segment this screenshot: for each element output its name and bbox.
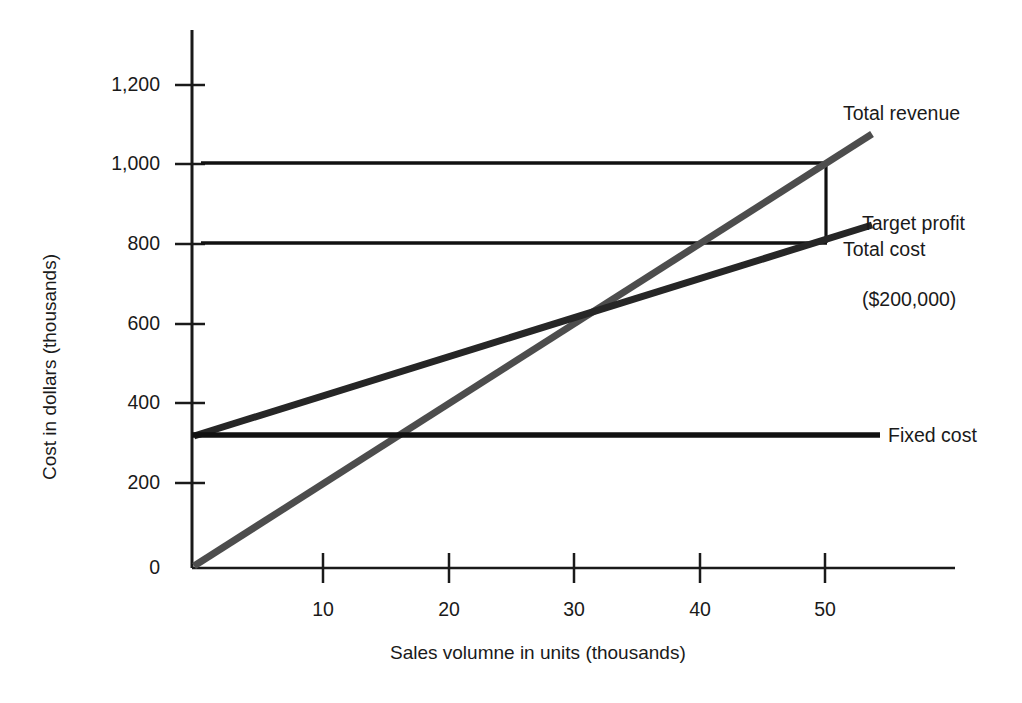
x-tick-label-50: 50	[795, 597, 855, 621]
y-tick-label-1000: 1,000	[52, 151, 160, 175]
y-tick-label-0: 0	[52, 555, 160, 579]
annotation-target-profit: Target profit ($200,000)	[862, 160, 965, 363]
annotation-total-revenue: Total revenue	[843, 101, 960, 125]
x-axis-title: Sales volumne in units (thousands)	[390, 641, 686, 665]
annotation-fixed-cost: Fixed cost	[888, 423, 977, 447]
y-tick-label-200: 200	[52, 470, 160, 494]
y-tick-label-1200: 1,200	[52, 72, 160, 96]
series-total-cost	[194, 225, 872, 436]
x-tick-label-40: 40	[670, 597, 730, 621]
x-tick-label-30: 30	[544, 597, 604, 621]
y-tick-label-600: 600	[52, 311, 160, 335]
x-tick-label-20: 20	[419, 597, 479, 621]
y-axis-title: Cost in dollars (thousands)	[38, 254, 62, 480]
y-tick-label-800: 800	[52, 231, 160, 255]
series-total-revenue	[194, 134, 872, 566]
x-tick-label-10: 10	[293, 597, 353, 621]
y-tick-label-400: 400	[52, 390, 160, 414]
annotation-total-cost: Total cost	[843, 237, 925, 261]
annotation-target-profit-line1: Target profit	[862, 211, 965, 236]
cost-volume-profit-chart: 1,200 1,000 800 600 400 200 0 10 20 30 4…	[0, 0, 1022, 703]
annotation-target-profit-line2: ($200,000)	[862, 287, 965, 312]
